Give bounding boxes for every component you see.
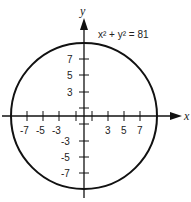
y-tick-label: 3	[67, 87, 73, 98]
x-axis-label: x	[183, 109, 190, 123]
circle-diagram: x y x² + y² = 81 -7 -5 -3 3 5 7 7 5 3 -3…	[0, 0, 191, 202]
y-tick-label: 7	[67, 54, 73, 65]
x-tick-label: -5	[36, 125, 45, 136]
x-axis-arrow-icon	[170, 112, 182, 120]
y-axis-arrow-icon	[80, 18, 88, 30]
x-tick-label: 3	[105, 125, 111, 136]
equation-label: x² + y² = 81	[98, 29, 149, 40]
x-tick-label: 5	[121, 125, 127, 136]
y-tick-label: -5	[61, 152, 70, 163]
y-tick-label: -3	[61, 136, 70, 147]
x-tick-label: -7	[20, 125, 29, 136]
y-tick-label: -7	[61, 168, 70, 179]
y-tick-label: 5	[67, 70, 73, 81]
x-tick-label: 7	[137, 125, 143, 136]
x-tick-label: -3	[52, 125, 61, 136]
y-axis-label: y	[79, 4, 86, 18]
